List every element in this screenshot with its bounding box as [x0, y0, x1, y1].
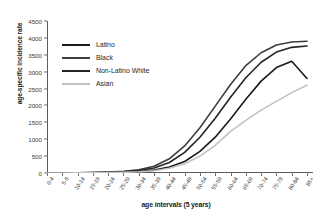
legend-color-swatch [62, 83, 90, 85]
legend: LatinoBlackNon-Latino WhiteAsian [62, 38, 149, 90]
x-tick-label: 55-59 [210, 176, 223, 191]
x-tick-label: 70-74 [256, 176, 269, 191]
y-tick-label: 500 [12, 153, 42, 160]
legend-item: Non-Latino White [62, 64, 149, 77]
x-tick-label: 40-44 [164, 176, 177, 191]
y-tick-label: 1500 [12, 119, 42, 126]
x-tick-label: 60-64 [226, 176, 239, 191]
x-tick-label: 5-9 [61, 176, 70, 186]
y-axis-tick-labels: 050010001500200025003000350040004500 [12, 0, 42, 220]
x-tick-label: 25-29 [119, 176, 132, 191]
legend-color-swatch [62, 70, 90, 72]
y-tick-label: 2500 [12, 85, 42, 92]
x-tick-label: 10-14 [73, 176, 86, 191]
y-tick-label: 3000 [12, 68, 42, 75]
x-tick-label: 0-4 [46, 176, 55, 186]
y-tick-label: 4500 [12, 18, 42, 25]
legend-item: Latino [62, 38, 149, 51]
x-tick-label: 45-49 [180, 176, 193, 191]
y-tick-label: 0 [12, 170, 42, 177]
x-tick-label: 35-39 [149, 176, 162, 191]
y-tick-label: 3500 [12, 51, 42, 58]
x-tick-label: 50-54 [195, 176, 208, 191]
x-tick-label: 30-34 [134, 176, 147, 191]
y-tick-label: 1000 [12, 136, 42, 143]
x-axis-title: age intervals (5 years) [96, 201, 256, 208]
legend-label: Black [96, 54, 113, 61]
legend-label: Non-Latino White [96, 67, 149, 74]
y-tick-label: 4000 [12, 34, 42, 41]
x-tick-label: 80-84 [287, 176, 300, 191]
x-tick-label: 75-79 [271, 176, 284, 191]
y-tick-label: 2000 [12, 102, 42, 109]
x-tick-label: 65-69 [241, 176, 254, 191]
legend-label: Latino [96, 41, 115, 48]
legend-label: Asian [96, 80, 113, 87]
x-tick-label: 20-24 [103, 176, 116, 191]
legend-item: Asian [62, 77, 149, 90]
x-tick-label: 85+ [305, 176, 315, 187]
legend-item: Black [62, 51, 149, 64]
series-line [47, 85, 307, 173]
legend-color-swatch [62, 57, 90, 59]
age-specific-incidence-chart: age-specific incidence rate age interval… [0, 0, 326, 220]
legend-color-swatch [62, 44, 90, 46]
x-tick-label: 15-19 [88, 176, 101, 191]
